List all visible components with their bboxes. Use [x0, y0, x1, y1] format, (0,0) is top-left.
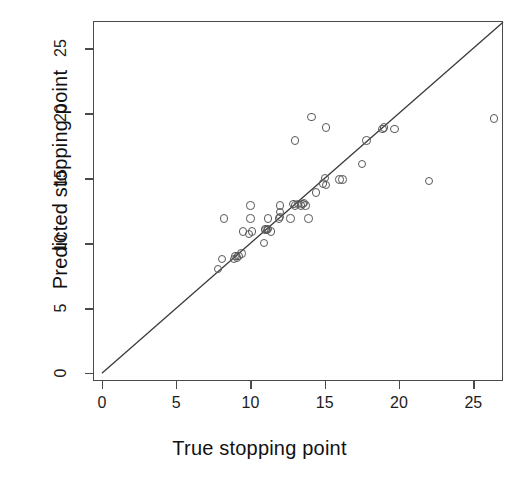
y-tick-mark — [85, 113, 93, 114]
y-tick-mark — [85, 373, 93, 374]
y-axis-label: Predicted stopping point — [49, 30, 72, 330]
scatter-plot-figure: 0510152025 0510152025 True stopping poin… — [0, 0, 519, 478]
data-point-marker — [276, 201, 284, 209]
y-tick-mark — [85, 308, 93, 309]
data-point-marker — [338, 175, 346, 183]
y-tick-mark — [85, 178, 93, 179]
data-point-marker — [286, 214, 294, 222]
data-point-marker — [248, 227, 256, 235]
x-tick-label: 0 — [82, 394, 122, 412]
data-point-marker — [237, 249, 245, 257]
x-tick-label: 5 — [156, 394, 196, 412]
data-point-marker — [304, 214, 312, 222]
x-tick-label: 20 — [379, 394, 419, 412]
x-tick-mark — [102, 381, 103, 389]
data-point-marker — [390, 125, 398, 133]
x-tick-label: 15 — [305, 394, 345, 412]
data-point-marker — [291, 136, 299, 144]
data-point-marker — [301, 201, 309, 209]
data-point-marker — [425, 177, 433, 185]
y-tick-label: 0 — [52, 353, 70, 393]
data-point-marker — [220, 214, 228, 222]
data-point-marker — [246, 201, 254, 209]
data-point-marker — [312, 188, 320, 196]
x-tick-mark — [325, 381, 326, 389]
x-tick-label: 25 — [453, 394, 493, 412]
data-point-marker — [246, 214, 254, 222]
x-tick-mark — [473, 381, 474, 389]
data-point-marker — [307, 113, 315, 121]
x-tick-mark — [399, 381, 400, 389]
data-point-marker — [380, 123, 388, 131]
x-tick-mark — [176, 381, 177, 389]
y-tick-mark — [85, 48, 93, 49]
y-tick-mark — [85, 243, 93, 244]
x-axis-label: True stopping point — [0, 437, 519, 460]
x-tick-mark — [250, 381, 251, 389]
data-point-marker — [362, 136, 370, 144]
data-point-marker — [490, 114, 498, 122]
x-tick-label: 10 — [230, 394, 270, 412]
